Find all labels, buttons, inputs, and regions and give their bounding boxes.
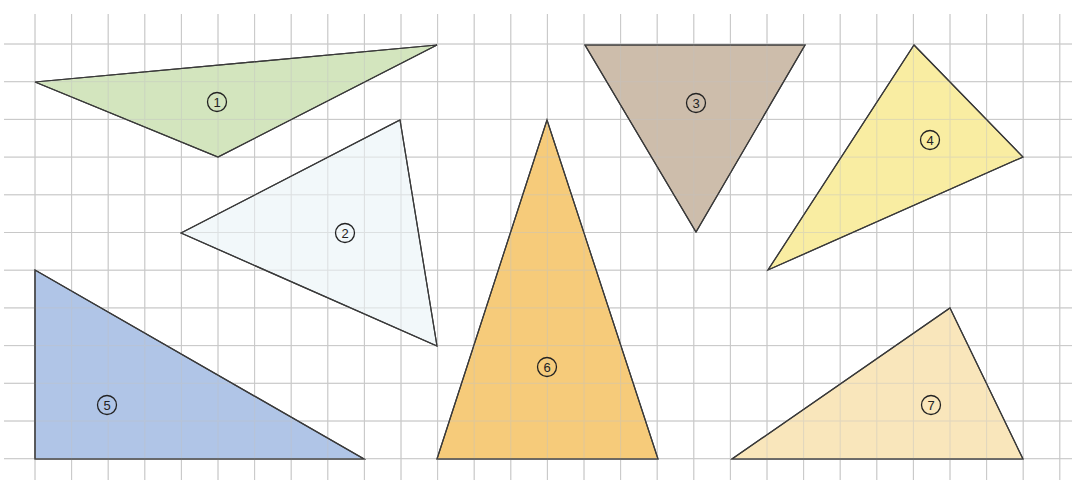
label-number: 6 bbox=[543, 360, 550, 375]
label-number: 4 bbox=[926, 133, 933, 148]
label-number: 1 bbox=[213, 95, 220, 110]
label-number: 3 bbox=[692, 96, 699, 111]
triangle-grid-diagram: 1234567 bbox=[0, 0, 1072, 482]
label-number: 2 bbox=[341, 226, 348, 241]
triangle-3 bbox=[585, 45, 805, 232]
triangles-layer bbox=[35, 45, 1023, 459]
label-number: 7 bbox=[927, 398, 934, 413]
label-number: 5 bbox=[103, 398, 110, 413]
